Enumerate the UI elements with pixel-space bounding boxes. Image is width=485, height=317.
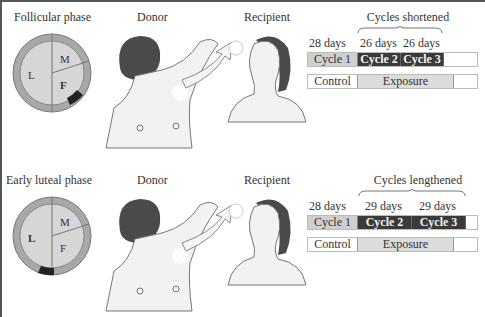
cycle-circle-icon: M L F: [10, 31, 96, 117]
phase-label: Early luteal phase: [6, 173, 92, 188]
cycle-bar: Cycle 1 Cycle 2 Cycle 3: [307, 215, 478, 230]
donor-label: Donor: [137, 173, 168, 188]
svg-text:L: L: [28, 69, 35, 81]
cycle-1-segment: Cycle 1: [308, 53, 358, 66]
cycle-2-segment: Cycle 2: [358, 216, 412, 229]
bracket-icon: [358, 189, 466, 197]
cycle-bar: Cycle 1 Cycle 2 Cycle 3: [307, 52, 478, 67]
cycle-2-segment: Cycle 2: [358, 53, 401, 66]
group-label: Cycles shortened: [360, 10, 456, 25]
panel-follicular: Follicular phase Donor Recipient M L F C…: [0, 0, 485, 158]
condition-bar: Control Exposure: [307, 74, 478, 89]
bracket-icon: [357, 26, 443, 34]
cycle-circle-icon: M L F: [10, 194, 96, 280]
recipient-figure-icon: [226, 30, 308, 122]
condition-bar: Control Exposure: [307, 237, 478, 252]
cycle-3-days: 26 days: [403, 36, 440, 51]
exposure-segment: Exposure: [358, 238, 454, 251]
svg-text:L: L: [28, 232, 35, 244]
cycle-2-days: 26 days: [360, 36, 397, 51]
cycle-3-days: 29 days: [419, 199, 456, 214]
panel-early-luteal: Early luteal phase Donor Recipient M L F…: [0, 163, 485, 317]
cycle-3-segment: Cycle 3: [412, 216, 466, 229]
recipient-figure-icon: [226, 193, 308, 285]
cycle-2-days: 29 days: [365, 199, 402, 214]
svg-text:M: M: [60, 216, 70, 228]
svg-text:F: F: [60, 79, 67, 91]
control-segment: Control: [308, 75, 358, 88]
control-segment: Control: [308, 238, 358, 251]
cycle-1-days: 28 days: [309, 36, 346, 51]
svg-text:F: F: [60, 242, 66, 254]
recipient-label: Recipient: [244, 173, 290, 188]
svg-text:M: M: [60, 53, 70, 65]
cycle-3-segment: Cycle 3: [401, 53, 444, 66]
cycle-1-segment: Cycle 1: [308, 216, 358, 229]
phase-label: Follicular phase: [14, 10, 91, 25]
donor-label: Donor: [137, 10, 168, 25]
exposure-segment: Exposure: [358, 75, 454, 88]
recipient-label: Recipient: [244, 10, 290, 25]
cycle-1-days: 28 days: [309, 199, 346, 214]
group-label: Cycles lengthened: [366, 173, 470, 188]
